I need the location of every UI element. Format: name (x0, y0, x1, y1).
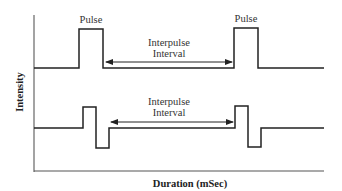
interval-label-top-line2: Interval (153, 48, 186, 59)
interval-label-top-line1: Interpulse (148, 37, 190, 48)
pulse-label-2: Pulse (235, 13, 258, 24)
interval-label-bottom-line2: Interval (153, 107, 186, 118)
interval-label-bottom-line1: Interpulse (148, 96, 190, 107)
x-axis-label: Duration (mSec) (153, 178, 228, 190)
y-axis-label: Intensity (14, 71, 25, 111)
pulse-label-1: Pulse (80, 14, 103, 25)
pulse-diagram: Pulse Pulse Interpulse Interval Interpul… (0, 0, 342, 191)
